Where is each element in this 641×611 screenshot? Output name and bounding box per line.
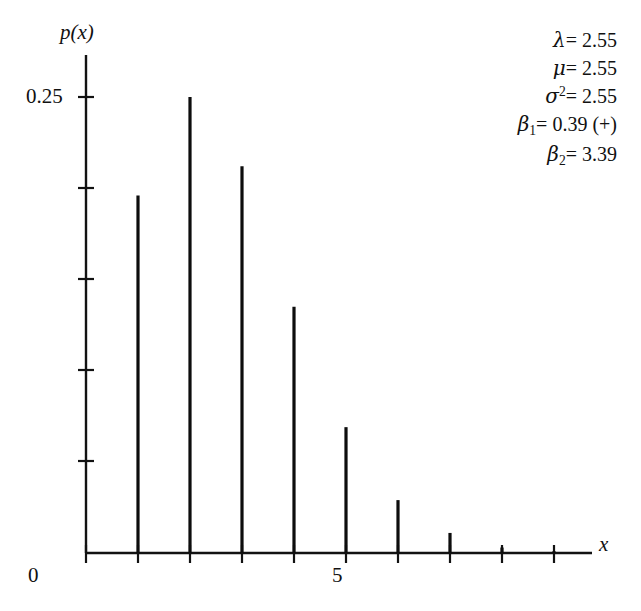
stat-beta1: β1= 0.39 (+): [452, 110, 617, 140]
stat-beta2: β2= 3.39: [452, 140, 617, 170]
stat-lambda: λ= 2.55: [452, 26, 617, 54]
y-axis-title: p(x): [60, 22, 94, 43]
stat-mu: μ= 2.55: [452, 54, 617, 82]
mu-symbol: μ: [553, 56, 566, 80]
mu-value: = 2.55: [566, 57, 617, 79]
poisson-pmf-figure: p(x) x 0.25 0 5 λ= 2.55 μ= 2.55 σ2= 2.55…: [0, 0, 641, 611]
statistics-annotation-block: λ= 2.55 μ= 2.55 σ2= 2.55 β1= 0.39 (+) β2…: [452, 26, 617, 170]
beta1-symbol: β: [518, 112, 530, 136]
sigma-exponent: 2: [559, 84, 566, 99]
beta1-value: = 0.39 (+): [536, 113, 617, 135]
lambda-symbol: λ: [553, 28, 566, 52]
sigma-symbol: σ: [545, 84, 559, 108]
sigma-value: = 2.55: [566, 85, 617, 107]
x-tick-label-5: 5: [332, 565, 343, 586]
x-axis-title: x: [599, 534, 608, 555]
stat-sigma-squared: σ2= 2.55: [452, 82, 617, 110]
beta2-subscript: 2: [559, 153, 566, 168]
beta2-symbol: β: [547, 142, 559, 166]
x-tick-label-0: 0: [28, 565, 39, 586]
beta2-value: = 3.39: [566, 143, 617, 165]
y-tick-label-025: 0.25: [26, 86, 63, 107]
lambda-value: = 2.55: [566, 29, 617, 51]
